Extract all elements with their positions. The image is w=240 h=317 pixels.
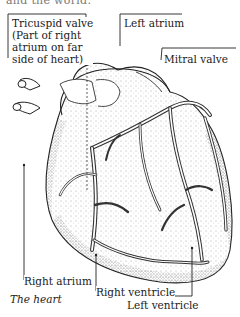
label-mitral-valve: Mitral valve <box>164 53 228 65</box>
label-left-atrium: Left atrium <box>124 17 184 29</box>
label-right-atrium: Right atrium <box>24 275 92 287</box>
label-left-ventricle: Left ventricle <box>127 299 199 311</box>
label-tricuspid-valve: Tricuspid valve (Part of right atrium on… <box>12 17 93 65</box>
figure-caption: The heart <box>10 293 62 305</box>
label-right-ventricle: Right ventricle <box>96 286 175 298</box>
